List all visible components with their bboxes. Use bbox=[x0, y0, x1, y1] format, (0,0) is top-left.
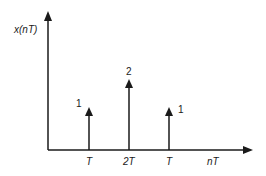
impulse-diagram: 1 2 1 T 2T T nT x(nT) bbox=[0, 0, 266, 176]
y-axis-label: x(nT) bbox=[13, 24, 37, 35]
x-axis-arrow-icon bbox=[243, 146, 253, 154]
x-axis-label: nT bbox=[207, 156, 220, 167]
impulse-3-arrow-icon bbox=[165, 107, 173, 116]
impulse-1-arrow-icon bbox=[85, 107, 93, 116]
value-label-1: 1 bbox=[76, 98, 82, 109]
tick-label-1: T bbox=[86, 156, 93, 167]
tick-label-2: 2T bbox=[122, 156, 136, 167]
y-axis-arrow-icon bbox=[44, 11, 52, 21]
impulse-2-arrow-icon bbox=[125, 79, 133, 88]
tick-label-3: T bbox=[166, 156, 173, 167]
value-label-3: 1 bbox=[178, 104, 184, 115]
value-label-2: 2 bbox=[126, 66, 132, 77]
